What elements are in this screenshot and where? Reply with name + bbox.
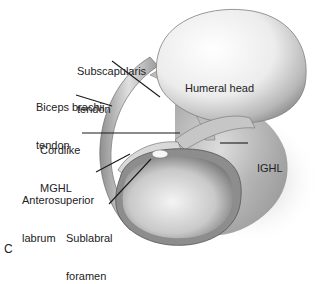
label-ighl: IGHL xyxy=(257,137,283,200)
label-line: Humeral head xyxy=(185,82,254,95)
label-line: IGHL xyxy=(257,162,283,175)
label-line: Anterosuperior xyxy=(22,194,94,207)
glenoid-fossa xyxy=(123,157,233,238)
label-line: foramen xyxy=(66,270,112,283)
label-line: Biceps brachii xyxy=(36,101,104,114)
label-line: Sublabral xyxy=(66,232,112,245)
label-line: Cordlike xyxy=(40,144,80,157)
panel-letter: C xyxy=(4,242,13,256)
label-sublabral-foramen: Sublabral foramen xyxy=(66,207,112,284)
sublabral-foramen xyxy=(152,150,168,158)
label-humeral-head: Humeral head xyxy=(185,57,254,120)
